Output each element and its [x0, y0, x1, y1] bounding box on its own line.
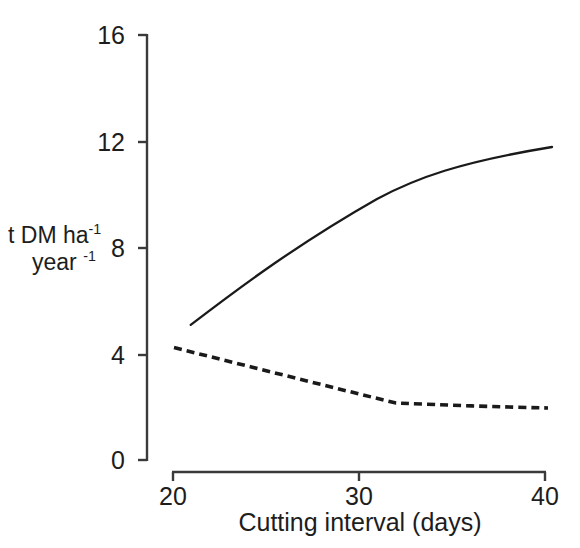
y-tick-label-12: 12 — [65, 128, 125, 157]
y-axis-title-line1-text: t DM ha — [8, 222, 89, 248]
series-dashed-line — [174, 348, 548, 408]
y-tick-label-16: 16 — [65, 21, 125, 50]
x-tick-label-30: 30 — [329, 482, 389, 511]
chart-figure: 16 12 8 4 0 20 30 40 t DM ha-1 year -1 C… — [0, 0, 580, 548]
x-axis-title: Cutting interval (days) — [170, 508, 550, 537]
y-axis-title-line2-exponent: -1 — [83, 248, 96, 264]
x-tick-label-20: 20 — [143, 482, 203, 511]
x-tick-label-40: 40 — [515, 482, 575, 511]
y-axis-title: t DM ha-1 year -1 — [8, 222, 138, 276]
y-axis-title-line2-text: year — [32, 249, 83, 275]
y-tick-label-4: 4 — [65, 341, 125, 370]
y-tick-label-0: 0 — [65, 446, 125, 475]
y-axis-title-line1-exponent: -1 — [89, 221, 102, 237]
series-solid-curve — [191, 147, 552, 325]
